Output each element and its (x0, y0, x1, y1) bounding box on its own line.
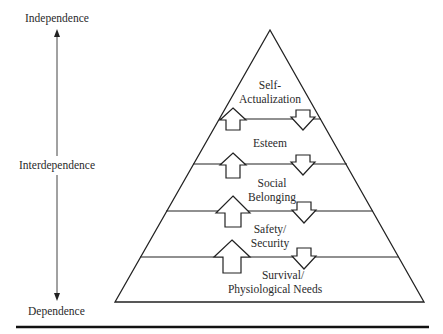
level-survival-physiological: Survival/ Physiological Needs (228, 268, 322, 296)
up-arrow-icon (220, 153, 246, 178)
up-arrows (214, 108, 250, 273)
interdependence-label: Interdependence (19, 159, 95, 172)
level-social-belonging: Social Belonging (248, 176, 296, 204)
down-arrow-icon (292, 202, 316, 223)
down-arrow-icon (291, 155, 315, 175)
level-esteem: Esteem (253, 136, 287, 150)
dependence-label: Dependence (28, 305, 85, 318)
arrow-up-icon (54, 29, 60, 37)
level-safety-security: Safety/ Security (251, 222, 289, 250)
up-arrow-icon (216, 196, 250, 227)
independence-label: Independence (25, 12, 89, 25)
level-self-actualization: Self- Actualization (239, 78, 301, 106)
down-arrow-icon (291, 110, 315, 130)
pyramid-outline (115, 30, 424, 302)
down-arrow-icon (292, 248, 316, 269)
arrow-down-icon (54, 293, 60, 301)
